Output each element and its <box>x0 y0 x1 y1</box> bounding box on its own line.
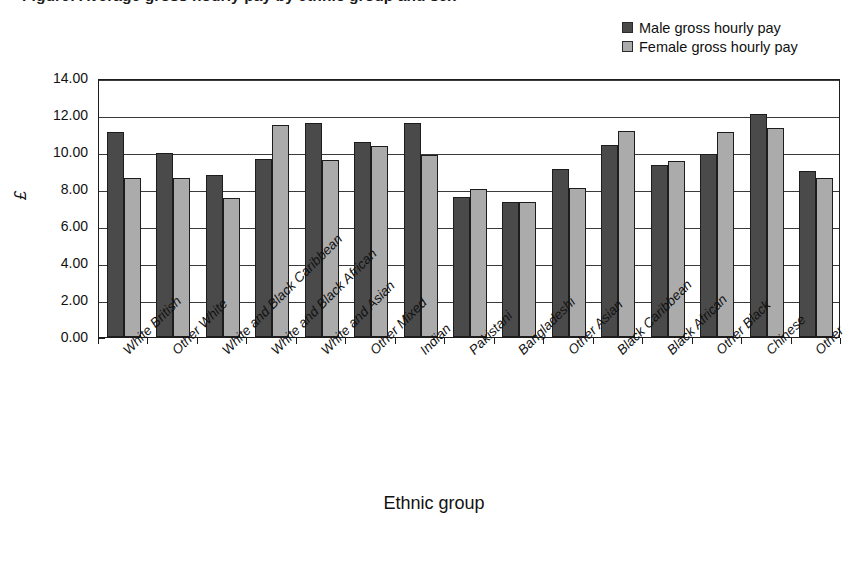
bar-female <box>173 178 190 337</box>
bar-male <box>107 132 124 337</box>
y-axis-tick-label: 6.00 <box>30 218 88 234</box>
bar-female <box>223 198 240 337</box>
y-axis-tick-label: 0.00 <box>30 329 88 345</box>
bar-female <box>569 188 586 337</box>
bar-female <box>816 178 833 337</box>
legend-swatch-male-icon <box>622 22 633 33</box>
y-axis-tick-label: 2.00 <box>30 292 88 308</box>
legend-item-male: Male gross hourly pay <box>622 18 862 37</box>
bar-female <box>519 202 536 337</box>
y-axis-tick-labels: 0.002.004.006.008.0010.0012.0014.00 <box>30 79 88 338</box>
gridline <box>99 117 839 118</box>
y-axis-tick-label: 10.00 <box>30 144 88 160</box>
x-axis-tick-mark <box>98 338 99 344</box>
y-axis-tick-label: 12.00 <box>30 107 88 123</box>
chart-legend: Male gross hourly pay Female gross hourl… <box>622 18 862 56</box>
x-axis-title: Ethnic group <box>0 493 868 514</box>
legend-label-male: Male gross hourly pay <box>639 20 781 36</box>
chart-figure: Figure: Average gross hourly pay by ethn… <box>0 0 868 561</box>
y-axis-tick-mark <box>98 338 105 339</box>
bar-female <box>470 189 487 337</box>
y-axis-tick-label: 14.00 <box>30 70 88 86</box>
y-axis-title: £ <box>12 191 30 200</box>
y-axis-tick-label: 4.00 <box>30 255 88 271</box>
bar-male <box>453 197 470 337</box>
legend-item-female: Female gross hourly pay <box>622 37 862 56</box>
legend-swatch-female-icon <box>622 41 633 52</box>
y-axis-tick-label: 8.00 <box>30 181 88 197</box>
legend-label-female: Female gross hourly pay <box>639 39 798 55</box>
gridline <box>99 80 839 81</box>
bar-male <box>799 171 816 337</box>
plot-area <box>98 79 840 338</box>
bar-female <box>124 178 141 337</box>
figure-title: Figure: Average gross hourly pay by ethn… <box>22 0 722 5</box>
